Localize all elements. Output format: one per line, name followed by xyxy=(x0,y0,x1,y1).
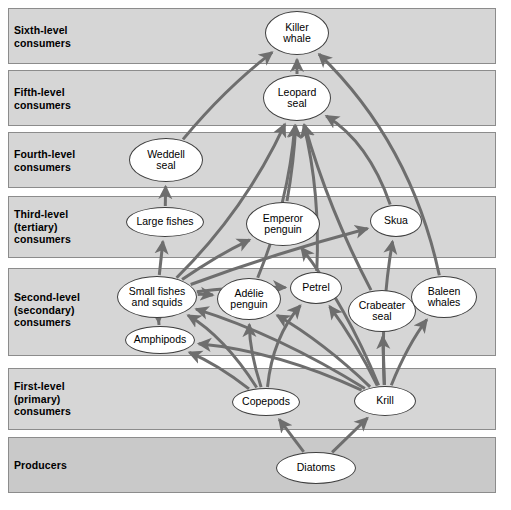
node-amphipods[interactable]: Amphipods xyxy=(125,326,195,354)
node-copepods[interactable]: Copepods xyxy=(232,388,300,416)
node-crabeater_seal[interactable]: Crabeater seal xyxy=(348,290,416,332)
node-krill[interactable]: Krill xyxy=(354,386,416,416)
node-skua[interactable]: Skua xyxy=(370,205,422,237)
arrow-diatoms-to-krill xyxy=(332,418,367,452)
arrow-baleen_whales-to-killer_whale xyxy=(319,54,439,275)
arrow-small_fishes-to-adelie_penguin xyxy=(198,294,213,295)
node-baleen_whales[interactable]: Baleen whales xyxy=(411,276,477,318)
arrow-krill-to-adelie_penguin xyxy=(277,315,370,387)
arrow-weddell_seal-to-killer_whale xyxy=(183,52,272,139)
arrow-copepods-to-amphipods xyxy=(189,352,249,389)
node-petrel[interactable]: Petrel xyxy=(290,272,342,304)
node-emperor_penguin[interactable]: Emperor penguin xyxy=(246,202,320,246)
food-web-diagram: Sixth-level consumersFifth-level consume… xyxy=(0,0,511,510)
node-large_fishes[interactable]: Large fishes xyxy=(126,207,204,237)
node-diatoms[interactable]: Diatoms xyxy=(276,452,356,484)
node-leopard_seal[interactable]: Leopard seal xyxy=(263,75,331,121)
arrow-diatoms-to-copepods xyxy=(279,419,304,451)
arrow-krill-to-amphipods xyxy=(199,344,362,390)
node-weddell_seal[interactable]: Weddell seal xyxy=(129,138,203,182)
arrow-small_fishes-to-large_fishes xyxy=(159,242,163,276)
node-killer_whale[interactable]: Killer whale xyxy=(265,11,329,55)
food-web-arrows xyxy=(0,0,511,510)
node-adelie_penguin[interactable]: Adélie penguin xyxy=(217,278,281,320)
node-small_fishes[interactable]: Small fishes and squids xyxy=(117,276,197,318)
